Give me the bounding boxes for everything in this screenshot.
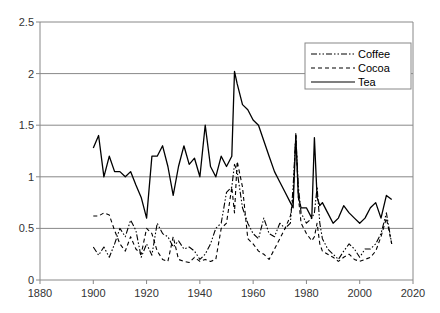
x-tick-label: 2000 [347, 287, 371, 299]
series-coffee-line [93, 136, 391, 260]
y-tick-label: 0.5 [19, 222, 34, 234]
legend-label-coffee: Coffee [358, 48, 390, 60]
y-tick-label: 1.5 [19, 119, 34, 131]
legend-label-cocoa: Cocoa [358, 62, 391, 74]
x-tick-label: 1900 [81, 287, 105, 299]
x-tick-label: 1880 [28, 287, 52, 299]
x-tick-label: 2020 [401, 287, 425, 299]
data-series [93, 72, 391, 263]
series-tea-line [93, 72, 391, 224]
x-tick-label: 1920 [134, 287, 158, 299]
x-axis-ticks: 18801900192019401960198020002020 [28, 280, 425, 299]
x-tick-label: 1940 [188, 287, 212, 299]
line-chart: 00.511.522.5 188019001920194019601980200… [0, 0, 440, 313]
y-tick-label: 1 [28, 171, 34, 183]
legend-label-tea: Tea [358, 76, 377, 88]
legend: CoffeeCocoaTea [305, 43, 411, 89]
x-tick-label: 1980 [294, 287, 318, 299]
y-tick-label: 2.5 [19, 16, 34, 28]
y-axis-ticks: 00.511.522.5 [19, 16, 40, 286]
x-tick-label: 1960 [241, 287, 265, 299]
y-tick-label: 2 [28, 68, 34, 80]
y-tick-label: 0 [28, 274, 34, 286]
